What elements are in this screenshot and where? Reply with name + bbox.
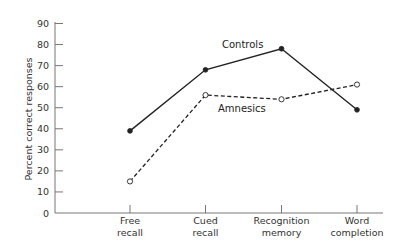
chart-canvas: 0102030405060708090 FreerecallCuedrecall… — [0, 0, 409, 250]
y-tick-label: 20 — [37, 165, 49, 176]
amnesics-line — [130, 85, 357, 182]
y-tick-label: 40 — [37, 123, 49, 134]
y-tick-label: 10 — [37, 186, 49, 197]
x-ticks: FreerecallCuedrecallRecognitionmemoryWor… — [117, 205, 383, 238]
x-category-label: Cued — [193, 215, 218, 226]
line-chart: 0102030405060708090 FreerecallCuedrecall… — [0, 0, 409, 250]
x-category-label: Free — [120, 215, 140, 226]
x-category-label: Recognition — [254, 215, 310, 226]
y-tick-label: 0 — [43, 208, 49, 219]
x-category-label: recall — [193, 227, 219, 238]
y-tick-label: 90 — [37, 18, 49, 29]
series-controls — [128, 46, 360, 133]
series-label-amnesics: Amnesics — [218, 103, 266, 114]
open-circle-marker — [354, 82, 359, 87]
filled-circle-marker — [128, 128, 133, 133]
open-circle-marker — [203, 92, 208, 97]
series-amnesics — [127, 82, 359, 184]
y-tick-label: 50 — [37, 102, 49, 113]
controls-line — [130, 49, 357, 131]
series-label-controls: Controls — [222, 39, 263, 50]
series-lines — [127, 46, 359, 184]
filled-circle-marker — [355, 107, 360, 112]
axes — [55, 22, 383, 213]
x-category-label: Word — [345, 215, 369, 226]
filled-circle-marker — [279, 46, 284, 51]
open-circle-marker — [127, 179, 132, 184]
x-category-label: recall — [117, 227, 143, 238]
y-tick-label: 80 — [37, 39, 49, 50]
y-tick-label: 30 — [37, 144, 49, 155]
filled-circle-marker — [203, 67, 208, 72]
y-tick-label: 70 — [37, 60, 49, 71]
y-ticks: 0102030405060708090 — [37, 18, 63, 219]
x-category-label: completion — [330, 227, 383, 238]
open-circle-marker — [279, 97, 284, 102]
x-category-label: memory — [262, 227, 302, 238]
y-axis-title: Percent correct responses — [23, 57, 34, 180]
y-tick-label: 60 — [37, 81, 49, 92]
